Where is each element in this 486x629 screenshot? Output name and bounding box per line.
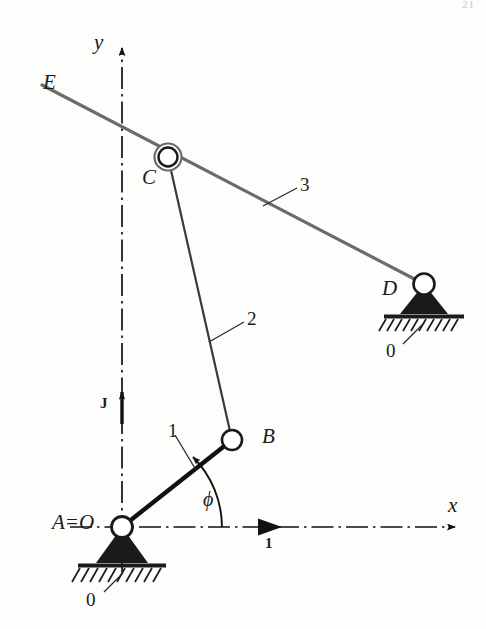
joint-label-a: A=O [52, 512, 94, 533]
joint-b [222, 430, 242, 450]
linkage-figure: y x J 1 A=O B C D E 1 2 3 0 0 ϕ 21 [0, 0, 486, 629]
ground-label-0-d: 0 [386, 341, 396, 360]
link-label-2: 2 [247, 309, 257, 328]
linkage-drawing [0, 0, 486, 629]
axis-label-x: x [448, 495, 457, 516]
angle-label-phi: ϕ [203, 489, 213, 509]
joint-label-d: D [382, 278, 397, 299]
joint-a [112, 517, 133, 538]
link-3 [42, 85, 424, 284]
joint-c [155, 144, 182, 171]
link-2 [168, 157, 232, 440]
link-label-3: 3 [300, 175, 310, 194]
unit-vector-i [258, 519, 282, 536]
leader-link-3 [263, 188, 297, 206]
unit-vector-j-label: J [100, 396, 108, 411]
link-1 [122, 440, 232, 527]
leader-link-2 [209, 322, 244, 342]
leader-link-1 [175, 435, 196, 470]
unit-vector-i-label: 1 [265, 536, 273, 551]
joint-label-c: C [142, 167, 156, 188]
joint-label-e: E [43, 72, 56, 93]
ground-label-0-a: 0 [86, 590, 96, 609]
joint-d [414, 274, 435, 295]
link-label-1: 1 [168, 421, 178, 440]
page-number: 21 [462, 0, 475, 10]
joint-label-b: B [262, 426, 275, 447]
axis-label-y: y [94, 32, 103, 53]
